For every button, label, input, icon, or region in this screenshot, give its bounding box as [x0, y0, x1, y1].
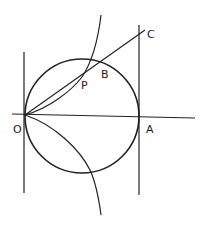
cissoid-lower-branch	[25, 115, 101, 215]
geometry-figure: C B P O A	[0, 0, 207, 228]
label-A: A	[146, 123, 154, 136]
x-axis-line	[12, 114, 195, 118]
diagram-canvas: C B P O A	[0, 0, 207, 228]
label-O: O	[13, 123, 22, 136]
label-B: B	[101, 68, 109, 81]
label-C: C	[147, 28, 155, 41]
label-P: P	[81, 79, 88, 92]
cissoid-upper-branch	[25, 15, 101, 115]
